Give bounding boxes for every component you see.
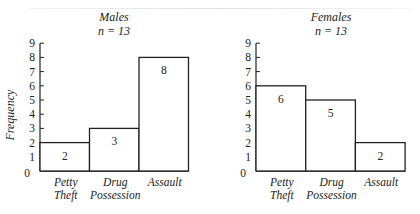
x-category-label: Assault — [363, 176, 399, 188]
bar-value-label: 2 — [62, 150, 68, 162]
bar-value-label: 3 — [111, 135, 117, 147]
chart-subtitle: n = 13 — [98, 24, 130, 38]
x-category-label: Possession — [305, 189, 357, 201]
y-tick-label: 9 — [29, 37, 35, 49]
x-category-label: Petty — [53, 176, 79, 189]
bar-value-label: 5 — [328, 107, 334, 119]
y-tick-label: 3 — [245, 122, 251, 134]
bar-value-label: 6 — [278, 93, 284, 105]
x-category-label: Theft — [270, 189, 294, 202]
y-tick-label: 1 — [245, 151, 251, 163]
y-tick-label: 0 — [240, 167, 246, 179]
y-axis-label: Frequency — [3, 89, 17, 142]
chart-title: Females — [310, 10, 352, 24]
y-tick-label: 6 — [245, 80, 251, 92]
chart-subtitle: n = 13 — [315, 24, 347, 38]
y-tick-label: 2 — [245, 137, 251, 149]
y-tick-label: 7 — [29, 66, 35, 78]
y-tick-label: 5 — [245, 94, 251, 106]
y-tick-label: 5 — [29, 94, 35, 106]
chart-males: Malesn = 130123456789Frequency2PettyThef… — [3, 10, 189, 202]
x-category-label: Possession — [89, 189, 141, 201]
bar-value-label: 2 — [377, 150, 383, 162]
y-tick-label: 4 — [29, 108, 35, 120]
y-tick-label: 1 — [29, 151, 35, 163]
y-tick-label: 4 — [245, 108, 251, 120]
bar-value-label: 8 — [161, 64, 167, 76]
chart-females: Femalesn = 1301234567896PettyTheft5DrugP… — [240, 10, 405, 202]
x-category-label: Drug — [318, 176, 344, 189]
histogram-figure: Malesn = 130123456789Frequency2PettyThef… — [0, 0, 420, 214]
y-tick-label: 8 — [245, 51, 251, 63]
y-tick-label: 2 — [29, 137, 35, 149]
y-tick-label: 8 — [29, 51, 35, 63]
x-category-label: Theft — [54, 189, 78, 202]
y-tick-label: 0 — [24, 167, 30, 179]
y-tick-label: 3 — [29, 122, 35, 134]
y-tick-label: 6 — [29, 80, 35, 92]
x-category-label: Assault — [147, 176, 183, 188]
x-category-label: Drug — [102, 176, 128, 189]
chart-title: Males — [98, 10, 129, 24]
x-category-label: Petty — [269, 176, 295, 189]
y-tick-label: 7 — [245, 66, 251, 78]
y-tick-label: 9 — [245, 37, 251, 49]
